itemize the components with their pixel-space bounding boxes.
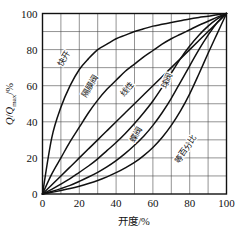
chart-svg: 快开快开隔膜阀隔膜阀线性线性球阀球阀蝶阀蝶阀等百分比等百分比 020406080…: [0, 0, 237, 231]
x-tick-label: 20: [74, 197, 86, 209]
y-tick-label: 0: [32, 188, 38, 200]
x-tick-label: 0: [40, 197, 46, 209]
y-tick-label: 80: [27, 44, 39, 56]
x-tick-label: 60: [147, 197, 159, 209]
y-tick-label: 20: [27, 152, 39, 164]
x-tick-label: 80: [184, 197, 196, 209]
y-tick-label: 40: [27, 116, 39, 128]
y-tick-label: 60: [27, 80, 39, 92]
valve-flow-characteristic-chart: 快开快开隔膜阀隔膜阀线性线性球阀球阀蝶阀蝶阀等百分比等百分比 020406080…: [0, 0, 237, 231]
x-tick-label: 100: [218, 197, 235, 209]
y-tick-label: 100: [21, 8, 38, 20]
x-axis-title: 开度/%: [118, 215, 150, 227]
y-axis-slash2: /%: [4, 83, 15, 95]
x-tick-label: 40: [111, 197, 123, 209]
y-axis-sub: max: [10, 94, 18, 107]
